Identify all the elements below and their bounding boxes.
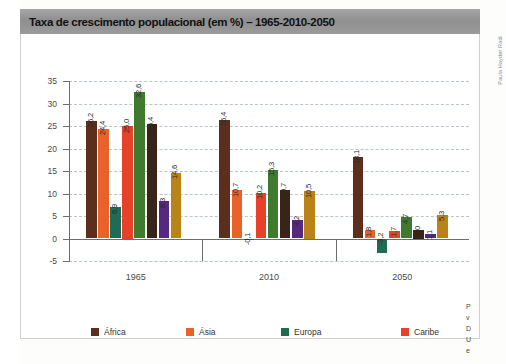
y-axis-tick	[63, 194, 70, 195]
bar-value-label: 4,2	[292, 216, 301, 226]
bar	[147, 124, 158, 238]
y-axis-tick-label: 15	[31, 166, 57, 176]
x-axis-label: 2050	[336, 272, 469, 282]
legend-swatch-icon	[91, 328, 99, 336]
zero-baseline	[69, 239, 469, 240]
bar	[171, 173, 182, 239]
bar	[304, 191, 315, 238]
legend-label: Ásia	[199, 327, 216, 337]
bar-value-label: 1,7	[389, 227, 398, 237]
y-axis-tick-label: 20	[31, 144, 57, 154]
bar-value-label: 32,6	[134, 84, 143, 98]
y-axis-tick-label: 10	[31, 189, 57, 199]
y-axis-tick-label: 30	[31, 99, 57, 109]
bar	[268, 170, 279, 239]
x-axis-group-separator	[202, 239, 203, 262]
page-left-margin	[0, 0, 20, 364]
bar-value-label: 10,2	[255, 185, 264, 199]
legend-label: África	[104, 327, 126, 337]
legend-item: Europa	[281, 327, 401, 337]
chart-legend: ÁfricaÁsiaEuropaCaribeAmérica CentralAmé…	[91, 324, 491, 339]
gridline	[69, 261, 469, 262]
page-title: Taxa de crescimento populacional (em %) …	[20, 16, 335, 28]
legend-label: Caribe	[414, 327, 439, 337]
bar-value-label: 8,3	[158, 198, 167, 208]
y-axis-tick	[63, 171, 70, 172]
bar-value-label: 15,3	[267, 162, 276, 176]
legend-item: África	[91, 327, 186, 337]
legend-swatch-icon	[281, 328, 289, 336]
legend-swatch-icon	[401, 328, 409, 336]
side-text-line: e	[466, 345, 506, 356]
bar-value-label: 6,9	[110, 204, 119, 214]
side-text-line: v	[466, 312, 506, 323]
side-text-line: P	[466, 301, 506, 312]
bar-value-label: -3,2	[376, 233, 385, 245]
page-side-text-column: PvDUe	[466, 301, 506, 356]
bar	[256, 193, 267, 239]
legend-label: Europa	[294, 327, 321, 337]
bar-value-label: 10,7	[279, 183, 288, 197]
chart-title-bar: Taxa de crescimento populacional (em %) …	[20, 9, 480, 34]
y-axis-tick	[63, 81, 70, 82]
bar-value-label: 14,6	[170, 165, 179, 179]
bar-value-label: 10,7	[231, 183, 240, 197]
bar-value-label: 25,4	[146, 117, 155, 131]
bar-value-label: -0,1	[243, 233, 252, 245]
side-text-line: D	[466, 323, 506, 334]
bar-value-label: 25,0	[122, 119, 131, 133]
bar	[280, 190, 291, 238]
bar	[219, 120, 230, 239]
bar-value-label: 5,3	[437, 211, 446, 221]
y-axis-tick	[63, 126, 70, 127]
bar-value-label: 10,5	[304, 184, 313, 198]
x-axis-label: 1965	[69, 272, 202, 282]
page-background: Taxa de crescimento populacional (em %) …	[0, 0, 506, 364]
y-axis-tick-label: -5	[31, 256, 57, 266]
bar	[122, 126, 133, 239]
bar	[134, 92, 145, 239]
bar-value-label: 1,8	[364, 227, 373, 237]
x-axis-group-separator	[336, 239, 337, 262]
bar-value-label: 18,1	[352, 150, 361, 164]
image-credit: Paula Hayder Radi	[497, 36, 503, 85]
bar-value-label: 2,0	[413, 226, 422, 236]
bar	[98, 129, 109, 239]
bar-value-label: 26,2	[86, 113, 95, 127]
y-axis-tick-label: 25	[31, 121, 57, 131]
y-axis-tick	[63, 149, 70, 150]
bar	[86, 121, 97, 239]
bar-value-label: 24,4	[98, 121, 107, 135]
bar-value-label: 1,1	[425, 230, 434, 240]
bar-value-label: 4,7	[401, 214, 410, 224]
y-axis-tick	[63, 261, 70, 262]
gridline	[69, 104, 469, 105]
side-text-line: U	[466, 334, 506, 345]
legend-swatch-icon	[186, 328, 194, 336]
y-axis-tick-label: 5	[31, 211, 57, 221]
x-axis-label: 2010	[202, 272, 335, 282]
y-axis-tick-label: 35	[31, 76, 57, 86]
legend-item: Ásia	[186, 327, 281, 337]
y-axis-tick	[63, 216, 70, 217]
gridline	[69, 81, 469, 82]
y-axis-tick-label: 0	[31, 234, 57, 244]
chart-frame: 35302520151050-5 26,224,46,925,032,625,4…	[20, 34, 480, 339]
y-axis-tick	[63, 104, 70, 105]
plot-area: 35302520151050-5 26,224,46,925,032,625,4…	[21, 34, 481, 339]
bar	[353, 157, 364, 238]
bar-value-label: 26,4	[219, 112, 228, 126]
bar	[232, 190, 243, 238]
